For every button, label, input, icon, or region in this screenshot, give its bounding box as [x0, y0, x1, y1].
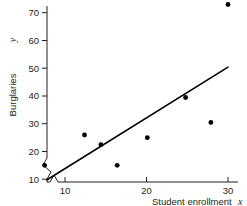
data-point	[82, 133, 87, 138]
y-tick-label-60: 60	[28, 35, 39, 46]
data-point	[209, 120, 214, 125]
data-point	[115, 163, 120, 168]
data-point	[183, 95, 188, 100]
y-tick-label-10: 10	[28, 174, 39, 185]
data-point	[99, 142, 104, 147]
y-tick-label-70: 70	[28, 7, 39, 18]
plot-canvas: 10 20 30 40 50 60 70 10 20 30 Burglaries…	[0, 0, 247, 206]
data-point	[145, 135, 150, 140]
regression-line	[47, 67, 228, 180]
y-tick-label-50: 50	[28, 63, 39, 74]
data-point	[226, 2, 231, 7]
y-tick-label-20: 20	[28, 146, 39, 157]
y-axis-title-variable: y	[7, 37, 18, 43]
x-axis-title: Student enrollment	[152, 196, 232, 206]
data-point	[42, 163, 47, 168]
y-tick-label-30: 30	[28, 118, 39, 129]
scatter-plot-figure: 10 20 30 40 50 60 70 10 20 30 Burglaries…	[0, 0, 247, 206]
y-tick-label-40: 40	[28, 90, 39, 101]
y-axis-title: Burglaries	[7, 73, 18, 116]
x-tick-label-30: 30	[223, 185, 234, 196]
x-axis-title-variable: x	[237, 196, 243, 206]
x-tick-label-10: 10	[60, 185, 71, 196]
x-tick-label-20: 20	[141, 185, 152, 196]
